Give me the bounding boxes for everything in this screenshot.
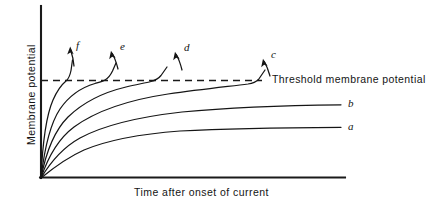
curve-label-b: b — [348, 98, 354, 109]
pointer-arrow-e — [109, 51, 118, 69]
curve-b-trace — [41, 105, 341, 178]
threshold-annotation-label: Threshold membrane potential — [272, 74, 426, 85]
axes-group — [40, 6, 345, 178]
curve-c-trace — [41, 70, 265, 178]
x-axis-label: Time after onset of current — [134, 187, 269, 198]
y-axis-label: Membrane potential — [26, 44, 37, 145]
curve-label-a: a — [348, 121, 354, 132]
pointer-arrow-d — [173, 52, 182, 70]
membrane-potential-figure: Membrane potential Time after onset of c… — [0, 0, 430, 205]
curve-label-f: f — [76, 40, 79, 51]
curve-d-trace — [41, 67, 167, 178]
curve-label-c: c — [271, 49, 276, 60]
plot-canvas — [0, 0, 430, 205]
pointer-arrow-f — [67, 47, 74, 67]
curve-label-e: e — [120, 41, 125, 52]
curve-label-d: d — [184, 42, 190, 53]
pointer-arrows — [67, 47, 270, 77]
